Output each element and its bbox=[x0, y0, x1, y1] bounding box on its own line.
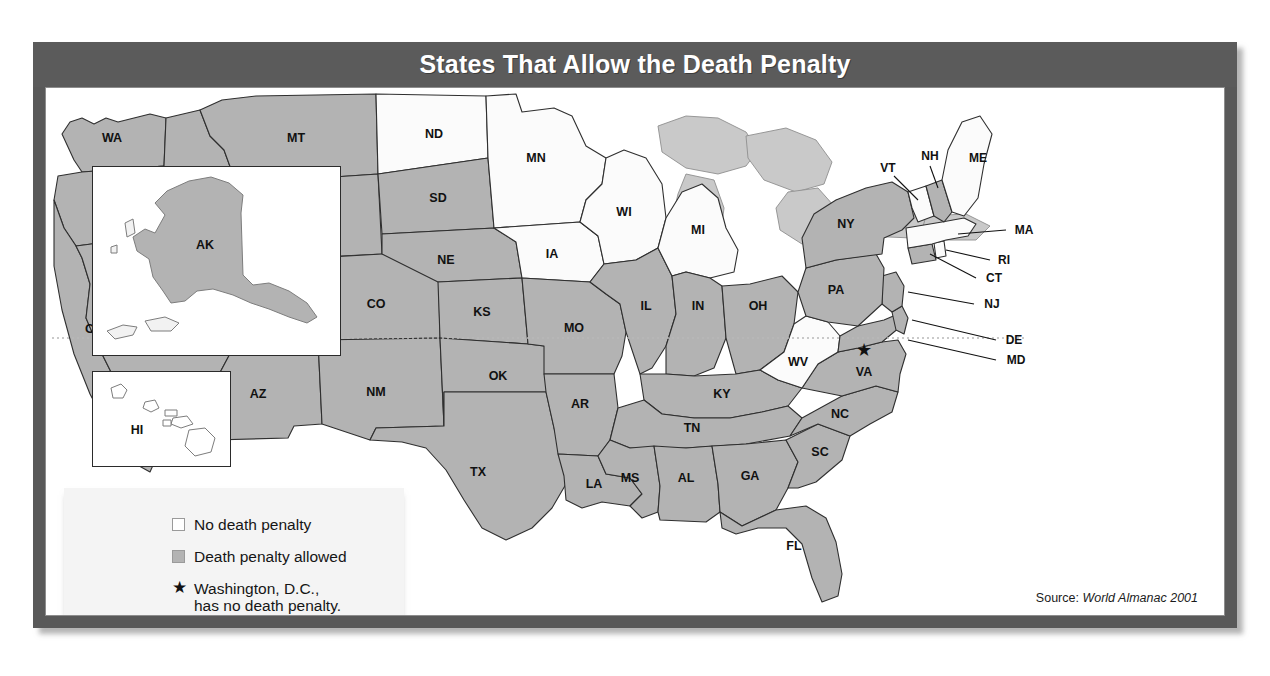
label-RI: RI bbox=[998, 253, 1010, 267]
label-TN: TN bbox=[684, 421, 701, 435]
label-SC: SC bbox=[811, 445, 828, 459]
hawaii-lanai bbox=[163, 420, 171, 426]
source-prefix: Source: bbox=[1036, 591, 1083, 605]
legend-swatch-white-square bbox=[172, 518, 185, 531]
legend: No death penalty Death penalty allowed ★… bbox=[64, 488, 404, 616]
hawaii-bigisland bbox=[185, 428, 215, 456]
inset-label-AK: AK bbox=[196, 238, 214, 252]
hawaii-kauai bbox=[111, 384, 127, 398]
label-IL: IL bbox=[640, 299, 651, 313]
alaska-shape bbox=[133, 177, 317, 323]
label-VA: VA bbox=[856, 365, 872, 379]
panel-header: States That Allow the Death Penalty bbox=[33, 42, 1237, 87]
alaska-island-1 bbox=[125, 219, 135, 237]
hawaii-oahu bbox=[143, 400, 159, 412]
legend-label-dc-note: Washington, D.C., has no death penalty. bbox=[194, 580, 341, 614]
label-AL: AL bbox=[678, 471, 695, 485]
hawaii-molokai bbox=[165, 410, 177, 416]
label-MA: MA bbox=[1015, 223, 1034, 237]
star-icon: ★ bbox=[172, 580, 185, 595]
label-NY: NY bbox=[837, 217, 855, 231]
figure-root: States That Allow the Death Penalty bbox=[0, 0, 1270, 676]
label-NJ: NJ bbox=[984, 297, 999, 311]
label-GA: GA bbox=[741, 469, 760, 483]
label-NH: NH bbox=[921, 149, 938, 163]
legend-label-no-death-penalty: No death penalty bbox=[194, 516, 311, 533]
label-OK: OK bbox=[489, 369, 508, 383]
hawaii-inset-svg: HI bbox=[93, 372, 228, 464]
hawaii-maui bbox=[171, 416, 193, 428]
label-DE: DE bbox=[1006, 333, 1023, 347]
label-TX: TX bbox=[470, 465, 487, 479]
label-FL: FL bbox=[786, 539, 802, 553]
label-CO: CO bbox=[367, 297, 386, 311]
label-MI: MI bbox=[691, 223, 705, 237]
label-AR: AR bbox=[571, 397, 589, 411]
alaska-island-2 bbox=[111, 245, 117, 253]
label-AZ: AZ bbox=[250, 387, 267, 401]
page-title: States That Allow the Death Penalty bbox=[419, 50, 850, 79]
label-MD: MD bbox=[1007, 353, 1026, 367]
alaska-inset-svg: AK bbox=[93, 167, 338, 353]
label-IA: IA bbox=[546, 247, 559, 261]
map-canvas: ★ WA OR CA NV I bbox=[45, 87, 1225, 616]
label-OH: OH bbox=[749, 299, 768, 313]
label-ME: ME bbox=[969, 151, 987, 165]
label-NM: NM bbox=[366, 385, 385, 399]
alaska-aleutians-2 bbox=[145, 317, 179, 331]
label-LA: LA bbox=[586, 477, 603, 491]
label-KS: KS bbox=[473, 305, 490, 319]
map-panel: States That Allow the Death Penalty bbox=[33, 42, 1237, 628]
state-IN bbox=[666, 272, 726, 376]
label-SD: SD bbox=[429, 191, 446, 205]
inset-label-HI: HI bbox=[131, 423, 144, 437]
label-CT: CT bbox=[986, 271, 1003, 285]
label-MS: MS bbox=[621, 471, 640, 485]
dc-star-marker: ★ bbox=[856, 339, 872, 360]
label-MN: MN bbox=[526, 151, 545, 165]
label-WA: WA bbox=[102, 131, 122, 145]
label-VT: VT bbox=[880, 161, 896, 175]
legend-item-death-penalty-allowed: Death penalty allowed bbox=[172, 548, 347, 565]
label-NC: NC bbox=[831, 407, 849, 421]
label-KY: KY bbox=[713, 387, 731, 401]
label-PA: PA bbox=[828, 283, 844, 297]
label-MO: MO bbox=[564, 321, 584, 335]
label-NE: NE bbox=[437, 253, 454, 267]
label-ND: ND bbox=[425, 127, 443, 141]
legend-swatch-gray-square bbox=[172, 550, 185, 563]
source-name: World Almanac 2001 bbox=[1082, 591, 1198, 605]
hawaii-inset: HI bbox=[92, 371, 231, 467]
legend-label-death-penalty-allowed: Death penalty allowed bbox=[194, 548, 347, 565]
label-MT: MT bbox=[287, 131, 305, 145]
source-credit: Source: World Almanac 2001 bbox=[1036, 591, 1198, 605]
legend-item-dc-note: ★ Washington, D.C., has no death penalty… bbox=[172, 580, 341, 614]
legend-item-no-death-penalty: No death penalty bbox=[172, 516, 311, 533]
alaska-aleutians bbox=[107, 325, 137, 339]
state-RI bbox=[934, 241, 946, 258]
label-WI: WI bbox=[616, 205, 631, 219]
alaska-inset: AK bbox=[92, 166, 341, 356]
label-IN: IN bbox=[692, 299, 705, 313]
state-ME bbox=[942, 116, 992, 216]
state-NJ bbox=[882, 272, 904, 312]
label-WV: WV bbox=[788, 355, 809, 369]
